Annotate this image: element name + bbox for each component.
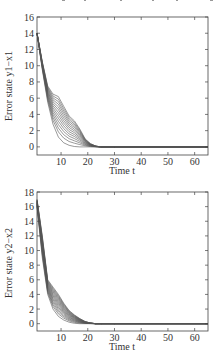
x-tick-label: 20 <box>83 332 93 343</box>
y-tick-label: 10 <box>24 60 34 71</box>
trajectory-line <box>37 201 208 324</box>
plot-svg-top: 1020304050600246810121416 Time t Error s… <box>0 0 219 177</box>
x-tick-label: 10 <box>56 332 66 343</box>
y-axis-label-bottom: Error state y2−x2 <box>3 228 14 298</box>
y-tick-label: 16 <box>24 12 34 23</box>
y-tick-label: 6 <box>29 274 34 285</box>
chart-error-y1-x1: 1020304050600246810121416 Time t Error s… <box>0 0 219 177</box>
plot-frame-top <box>37 17 208 155</box>
ticks-top: 1020304050600246810121416 <box>24 12 208 168</box>
y-tick-label: 16 <box>24 201 34 212</box>
y-tick-label: 0 <box>29 318 34 329</box>
x-tick-label: 60 <box>190 332 200 343</box>
y-tick-label: 8 <box>29 76 34 87</box>
y-tick-label: 2 <box>29 125 34 136</box>
y-tick-label: 0 <box>29 141 34 152</box>
y-tick-label: 14 <box>24 28 34 39</box>
curves-bottom <box>37 199 208 323</box>
y-tick-label: 18 <box>24 187 34 198</box>
y-axis-label-top: Error state y1−x1 <box>3 51 14 121</box>
y-tick-label: 2 <box>29 304 34 315</box>
curves-top <box>37 33 208 147</box>
y-tick-label: 4 <box>29 289 34 300</box>
x-axis-label-bottom: Time t <box>109 341 135 352</box>
y-tick-label: 8 <box>29 260 34 271</box>
y-tick-label: 4 <box>29 109 34 120</box>
trajectory-line <box>37 33 208 147</box>
x-tick-label: 10 <box>56 156 66 167</box>
x-tick-label: 50 <box>163 156 173 167</box>
plot-svg-bottom: 102030405060024681012141618 Time t Error… <box>0 177 219 354</box>
chart-error-y2-x2: 102030405060024681012141618 Time t Error… <box>0 177 219 354</box>
y-tick-label: 12 <box>24 44 34 55</box>
x-tick-label: 60 <box>190 156 200 167</box>
x-tick-label: 40 <box>136 332 146 343</box>
y-tick-label: 10 <box>24 245 34 256</box>
x-axis-label-top: Time t <box>109 165 135 176</box>
x-tick-label: 20 <box>83 156 93 167</box>
x-tick-label: 50 <box>163 332 173 343</box>
y-tick-label: 12 <box>24 230 34 241</box>
y-tick-label: 14 <box>24 216 34 227</box>
y-tick-label: 6 <box>29 93 34 104</box>
ticks-bottom: 102030405060024681012141618 <box>24 187 208 344</box>
x-tick-label: 40 <box>136 156 146 167</box>
